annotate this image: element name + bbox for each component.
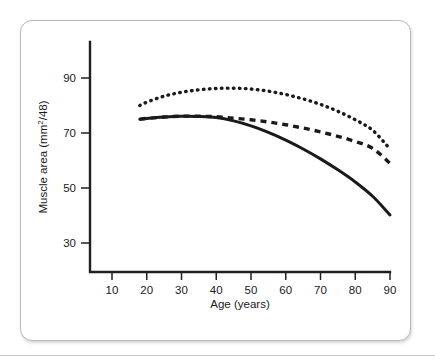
- dashed-middle-curve: [140, 116, 390, 163]
- y-axis-title: Muscle area (mm2/48): [36, 100, 49, 213]
- y-tick-label: 50: [63, 182, 76, 194]
- y-tick-label: 30: [63, 237, 76, 249]
- muscle-area-vs-age-chart: 30507090 102030405060708090 Age (years) …: [0, 0, 435, 362]
- axis-spine: [90, 42, 390, 272]
- x-tick-label: 10: [106, 284, 119, 296]
- x-tick-label: 70: [314, 284, 327, 296]
- bottom-divider: [0, 355, 435, 356]
- y-axis-tick-labels: 30507090: [63, 72, 76, 249]
- y-axis-title-tail: /48): [37, 100, 49, 120]
- y-tick-label: 90: [63, 72, 76, 84]
- x-tick-label: 90: [384, 284, 397, 296]
- plot-axes: [81, 42, 390, 280]
- series-group: [140, 88, 390, 215]
- x-axis-title: Age (years): [210, 298, 270, 310]
- x-tick-label: 20: [140, 284, 153, 296]
- solid-lower-curve: [140, 116, 390, 215]
- y-axis-tick-marks: [81, 78, 90, 243]
- x-tick-label: 40: [210, 284, 223, 296]
- x-tick-label: 30: [175, 284, 188, 296]
- x-axis-tick-labels: 102030405060708090: [106, 284, 397, 296]
- y-axis-title-base: Muscle area (mm: [37, 125, 49, 214]
- x-tick-label: 80: [349, 284, 362, 296]
- x-tick-label: 60: [279, 284, 292, 296]
- y-tick-label: 70: [63, 127, 76, 139]
- x-tick-label: 50: [245, 284, 258, 296]
